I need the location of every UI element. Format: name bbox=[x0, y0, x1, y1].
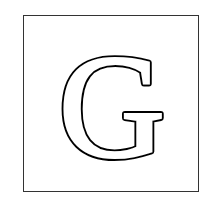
outlined-letter-icon: G G bbox=[24, 16, 198, 191]
letter-g-logo: G G bbox=[24, 16, 198, 191]
letter-frame: G G bbox=[23, 15, 199, 192]
letter-g-inner: G bbox=[59, 25, 166, 189]
